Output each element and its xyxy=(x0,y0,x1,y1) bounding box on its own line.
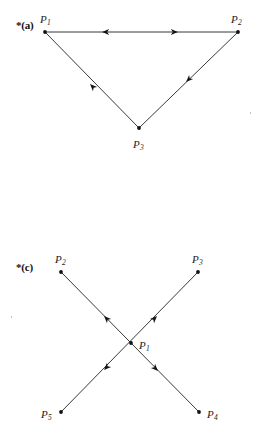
diagram-canvas xyxy=(0,0,263,443)
figure-page: *(a) P1 P2 P3 *(c) P2 P3 P1 P5 P4 xyxy=(0,0,263,443)
scan-speck xyxy=(11,316,12,318)
vertex-label-p5-figure-c: P5 xyxy=(41,409,51,420)
figure-c-label: *(c) xyxy=(16,262,33,273)
graph-vertex-dot xyxy=(137,126,141,130)
vertex-label-p2-figure-c-base: P xyxy=(55,253,62,265)
vertex-label-p1-figure-c-base: P xyxy=(139,339,146,351)
vertex-label-p1-figure-c: P1 xyxy=(139,340,149,351)
graph-vertex-dot xyxy=(129,341,133,345)
graph-vertex-dot xyxy=(197,410,201,414)
vertex-label-p3-figure-c-sub: 3 xyxy=(199,258,203,267)
vertex-label-p1-figure-a-base: P xyxy=(40,13,47,25)
vertex-label-p1-figure-a: P1 xyxy=(40,14,50,25)
vertex-label-p2-figure-c-sub: 2 xyxy=(62,258,66,267)
figure-a-graph xyxy=(43,29,240,130)
vertex-label-p3-figure-a: P3 xyxy=(133,139,143,150)
vertex-label-p2-figure-a-sub: 2 xyxy=(238,18,242,27)
graph-vertex-dot xyxy=(59,410,63,414)
edge-arrowhead xyxy=(102,363,111,372)
edge-arrowhead xyxy=(150,314,159,323)
graph-edge xyxy=(45,32,139,128)
graph-vertex-dot xyxy=(236,30,240,34)
graph-vertex-dot xyxy=(43,30,47,34)
vertex-label-p4-figure-c-base: P xyxy=(207,408,214,420)
vertex-label-p2-figure-a-base: P xyxy=(231,13,238,25)
vertex-label-p5-figure-c-base: P xyxy=(41,408,48,420)
vertex-label-p3-figure-a-base: P xyxy=(133,138,140,150)
scan-speck xyxy=(250,112,251,114)
vertex-label-p4-figure-c: P4 xyxy=(207,409,217,420)
vertex-label-p2-figure-a: P2 xyxy=(231,14,241,25)
vertex-label-p1-figure-c-sub: 1 xyxy=(146,344,150,353)
graph-vertex-dot xyxy=(196,270,200,274)
vertex-label-p2-figure-c: P2 xyxy=(55,254,65,265)
figure-a-label: *(a) xyxy=(16,20,34,31)
figure-c-graph xyxy=(59,270,201,414)
vertex-label-p3-figure-c-base: P xyxy=(192,253,199,265)
vertex-label-p3-figure-c: P3 xyxy=(192,254,202,265)
vertex-label-p5-figure-c-sub: 5 xyxy=(48,413,52,422)
vertex-label-p4-figure-c-sub: 4 xyxy=(214,413,218,422)
vertex-label-p1-figure-a-sub: 1 xyxy=(47,18,51,27)
graph-vertex-dot xyxy=(59,270,63,274)
vertex-label-p3-figure-a-sub: 3 xyxy=(140,143,144,152)
